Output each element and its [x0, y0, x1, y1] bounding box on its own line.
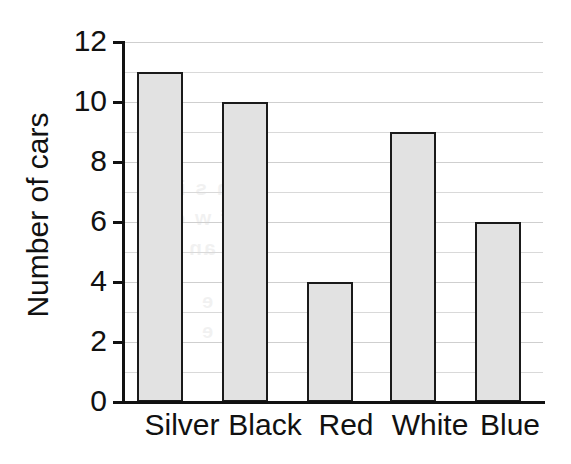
- y-tick-label: 12: [47, 26, 107, 56]
- y-tick-label: 2: [47, 326, 107, 356]
- gridline: [124, 192, 543, 193]
- x-axis-line: [122, 401, 545, 404]
- y-tick-label: 8: [47, 146, 107, 176]
- y-tick-label: 0: [47, 386, 107, 416]
- y-tick-label: 10: [47, 86, 107, 116]
- bar-chart-figure: nt n s ion ri f w c s an 00 f e Ch e Num…: [0, 0, 571, 464]
- bar-silver: [137, 72, 183, 402]
- y-axis-line: [122, 41, 125, 404]
- gridline: [124, 132, 543, 133]
- bar-black: [222, 102, 268, 402]
- bar-red: [307, 282, 353, 402]
- gridline: [124, 42, 543, 43]
- bar-white: [390, 132, 436, 402]
- gridline: [124, 102, 543, 103]
- bar-blue: [475, 222, 521, 402]
- gridline: [124, 72, 543, 73]
- y-tick-label: 4: [47, 266, 107, 296]
- gridline: [124, 162, 543, 163]
- plot-area: [124, 42, 543, 402]
- y-tick-label: 6: [47, 206, 107, 236]
- x-axis-label-blue: Blue: [450, 409, 570, 441]
